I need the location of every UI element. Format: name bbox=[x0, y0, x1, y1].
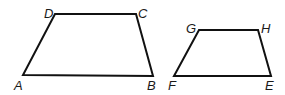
vertex-label-d: D bbox=[44, 6, 53, 21]
vertex-label-b: B bbox=[147, 78, 156, 93]
trapezoid-abcd-outline bbox=[23, 14, 153, 76]
vertex-label-a: A bbox=[13, 78, 23, 93]
diagram-canvas: A B C D F E H G bbox=[0, 0, 285, 95]
vertex-label-f: F bbox=[168, 78, 177, 93]
trapezoid-efgh-outline bbox=[174, 30, 271, 76]
trapezoid-efgh: F E H G bbox=[168, 21, 274, 93]
vertex-label-g: G bbox=[186, 21, 196, 36]
vertex-label-c: C bbox=[138, 6, 148, 21]
vertex-label-e: E bbox=[265, 78, 274, 93]
trapezoid-abcd: A B C D bbox=[13, 6, 156, 93]
vertex-label-h: H bbox=[261, 21, 271, 36]
